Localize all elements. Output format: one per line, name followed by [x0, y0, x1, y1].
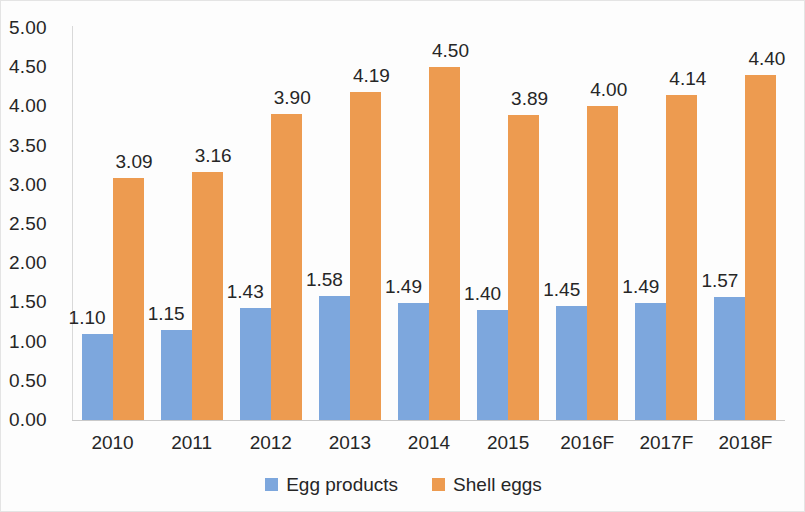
bar-value-label: 1.43 — [213, 282, 277, 301]
bar-egg-products[interactable] — [82, 334, 113, 420]
bar-value-label: 1.58 — [292, 270, 356, 289]
bar-shell-eggs[interactable] — [350, 92, 381, 420]
bar-egg-products[interactable] — [319, 296, 350, 420]
x-axis-tick-label: 2014 — [384, 433, 474, 453]
legend-label: Egg products — [286, 475, 398, 494]
y-axis-tick-label: 0.00 — [9, 410, 69, 429]
y-axis-tick-label: 5.00 — [9, 18, 69, 37]
x-axis-tick-label: 2011 — [147, 433, 237, 453]
bar-shell-eggs[interactable] — [113, 178, 144, 420]
bar-value-label: 1.10 — [55, 308, 119, 327]
bar-egg-products[interactable] — [240, 308, 271, 420]
bar-value-label: 4.40 — [735, 49, 799, 68]
bar-value-label: 4.00 — [577, 80, 641, 99]
bar-egg-products[interactable] — [398, 303, 429, 420]
bar-value-label: 1.45 — [530, 280, 594, 299]
x-axis-tick-label: 2018F — [700, 433, 790, 453]
y-axis-tick-labels: 5.004.504.003.503.002.502.001.501.000.50… — [9, 1, 65, 512]
x-axis-tick-label: 2016F — [542, 433, 632, 453]
bar-value-label: 4.50 — [419, 41, 483, 60]
y-axis-tick-label: 1.00 — [9, 332, 69, 351]
x-axis-tick-label: 2015 — [463, 433, 553, 453]
bar-egg-products[interactable] — [477, 310, 508, 420]
legend-swatch-icon — [265, 478, 278, 491]
y-axis-tick-label: 4.00 — [9, 96, 69, 115]
legend-item-egg-products[interactable]: Egg products — [265, 475, 398, 494]
bar-value-label: 3.16 — [181, 146, 245, 165]
bar-egg-products[interactable] — [714, 297, 745, 420]
y-axis-tick-label: 2.00 — [9, 253, 69, 272]
bar-shell-eggs[interactable] — [508, 115, 539, 420]
y-axis-tick-label: 3.00 — [9, 175, 69, 194]
x-axis-tick-label: 2013 — [305, 433, 395, 453]
bar-value-label: 3.89 — [498, 89, 562, 108]
bar-value-label: 4.14 — [656, 69, 720, 88]
bar-shell-eggs[interactable] — [587, 106, 618, 420]
legend-swatch-icon — [432, 478, 445, 491]
bar-egg-products[interactable] — [635, 303, 666, 420]
bar-shell-eggs[interactable] — [745, 75, 776, 420]
legend-label: Shell eggs — [453, 475, 542, 494]
x-axis-line — [72, 420, 785, 421]
bar-shell-eggs[interactable] — [666, 95, 697, 420]
bar-value-label: 1.40 — [451, 284, 515, 303]
bar-value-label: 4.19 — [339, 66, 403, 85]
chart-legend: Egg productsShell eggs — [1, 475, 805, 494]
y-axis-tick-label: 0.50 — [9, 371, 69, 390]
y-axis-tick-label: 3.50 — [9, 136, 69, 155]
bar-shell-eggs[interactable] — [271, 114, 302, 420]
bar-value-label: 1.49 — [372, 277, 436, 296]
plot-area: 1.103.091.153.161.433.901.584.191.494.50… — [73, 28, 785, 420]
x-axis-tick-label: 2010 — [68, 433, 158, 453]
bar-value-label: 1.57 — [688, 271, 752, 290]
y-axis-tick-label: 2.50 — [9, 214, 69, 233]
bar-chart: 5.004.504.003.503.002.502.001.501.000.50… — [0, 0, 805, 512]
bar-value-label: 1.15 — [134, 304, 198, 323]
bar-egg-products[interactable] — [556, 306, 587, 420]
y-axis-tick-label: 4.50 — [9, 57, 69, 76]
x-axis-tick-label: 2012 — [226, 433, 316, 453]
bar-value-label: 3.90 — [260, 88, 324, 107]
bar-value-label: 1.49 — [609, 277, 673, 296]
x-axis-tick-label: 2017F — [621, 433, 711, 453]
legend-item-shell-eggs[interactable]: Shell eggs — [432, 475, 542, 494]
bar-value-label: 3.09 — [102, 152, 166, 171]
bar-shell-eggs[interactable] — [429, 67, 460, 420]
bar-egg-products[interactable] — [161, 330, 192, 420]
